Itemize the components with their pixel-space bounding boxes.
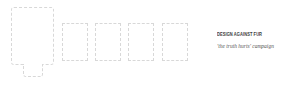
thumbnail-frame-2[interactable] bbox=[95, 23, 121, 61]
thumbnail-frame-4[interactable] bbox=[162, 23, 188, 61]
project-subtitle: 'the truth hurts' campaign bbox=[217, 43, 274, 49]
project-title: DESIGN AGAINST FUR bbox=[217, 31, 262, 37]
thumbnail-frame-1[interactable] bbox=[62, 23, 88, 61]
main-frame-tab bbox=[23, 64, 43, 77]
main-frame[interactable] bbox=[11, 7, 54, 65]
thumbnail-frame-3[interactable] bbox=[128, 23, 154, 61]
